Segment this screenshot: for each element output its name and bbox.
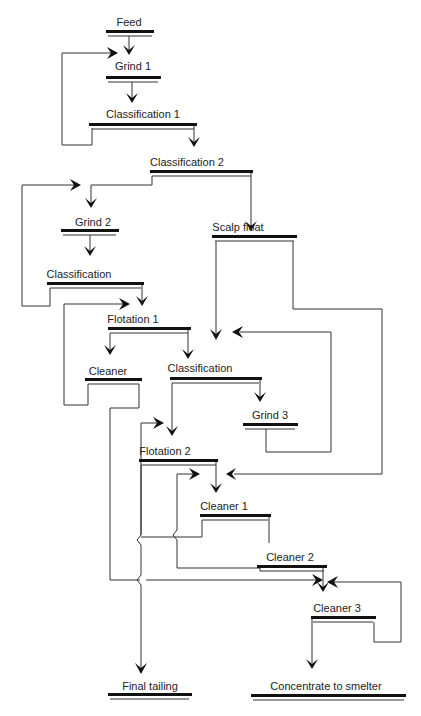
node-scalp-float: Scalp float bbox=[212, 221, 297, 241]
node-label: Flotation 2 bbox=[139, 445, 190, 457]
node-label: Cleaner 2 bbox=[266, 551, 314, 563]
node-label: Cleaner 1 bbox=[200, 500, 248, 512]
node-label: Grind 2 bbox=[75, 216, 111, 228]
node-label: Flotation 1 bbox=[107, 313, 158, 325]
node-concentrate-to-smelter: Concentrate to smelter bbox=[251, 680, 406, 700]
node-label: Classification 2 bbox=[150, 156, 224, 168]
node-cleaner: Cleaner bbox=[85, 365, 142, 384]
node-classification-b: Classification bbox=[168, 362, 262, 383]
node-classification-2: Classification 2 bbox=[150, 156, 253, 176]
node-grind-2: Grind 2 bbox=[61, 216, 119, 235]
node-label: Classification 1 bbox=[106, 108, 180, 120]
node-grind-3: Grind 3 bbox=[243, 409, 298, 429]
node-label: Grind 1 bbox=[115, 60, 151, 72]
node-label: Classification bbox=[47, 268, 112, 280]
node-label: Feed bbox=[116, 16, 141, 28]
node-grind-1: Grind 1 bbox=[106, 60, 161, 82]
node-cleaner-2: Cleaner 2 bbox=[257, 551, 327, 571]
node-label: Final tailing bbox=[122, 680, 178, 692]
node-label: Classification bbox=[168, 362, 233, 374]
node-label: Cleaner bbox=[89, 365, 128, 377]
node-label: Concentrate to smelter bbox=[270, 680, 382, 692]
node-flotation-1: Flotation 1 bbox=[107, 313, 191, 333]
node-label: Cleaner 3 bbox=[313, 602, 361, 614]
flowsheet-diagram: Feed Grind 1 Classification 1 Classifica… bbox=[0, 0, 421, 716]
node-feed: Feed bbox=[106, 16, 154, 36]
node-classification-1: Classification 1 bbox=[89, 108, 197, 129]
node-label: Scalp float bbox=[212, 221, 263, 233]
node-flotation-2: Flotation 2 bbox=[139, 445, 218, 465]
node-cleaner-1: Cleaner 1 bbox=[200, 500, 271, 543]
node-label: Grind 3 bbox=[252, 409, 288, 421]
node-cleaner-3: Cleaner 3 bbox=[311, 602, 376, 622]
node-classification-a: Classification bbox=[47, 268, 144, 288]
node-final-tailing: Final tailing bbox=[108, 680, 192, 699]
